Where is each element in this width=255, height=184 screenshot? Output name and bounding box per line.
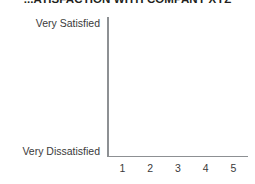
chart-figure: ...ATISFACTION WITH COMPANY XYZ Very Sat… bbox=[0, 0, 255, 184]
x-axis-tick-labels: 1 2 3 4 5 bbox=[108, 162, 248, 176]
x-axis-tick-3: 3 bbox=[174, 162, 183, 176]
x-axis-tick-5: 5 bbox=[229, 162, 238, 176]
plot-area bbox=[109, 18, 248, 155]
x-axis-line bbox=[107, 156, 248, 158]
x-axis-tick-4: 4 bbox=[201, 162, 210, 176]
chart-title-clip: ...ATISFACTION WITH COMPANY XYZ bbox=[0, 0, 255, 6]
x-axis-tick-1: 1 bbox=[118, 162, 127, 176]
chart-title: ...ATISFACTION WITH COMPANY XYZ bbox=[24, 0, 232, 5]
y-axis-label-very-satisfied: Very Satisfied bbox=[0, 17, 100, 29]
y-axis-label-very-dissatisfied: Very Dissatisfied bbox=[0, 145, 100, 157]
x-axis-tick-2: 2 bbox=[146, 162, 155, 176]
